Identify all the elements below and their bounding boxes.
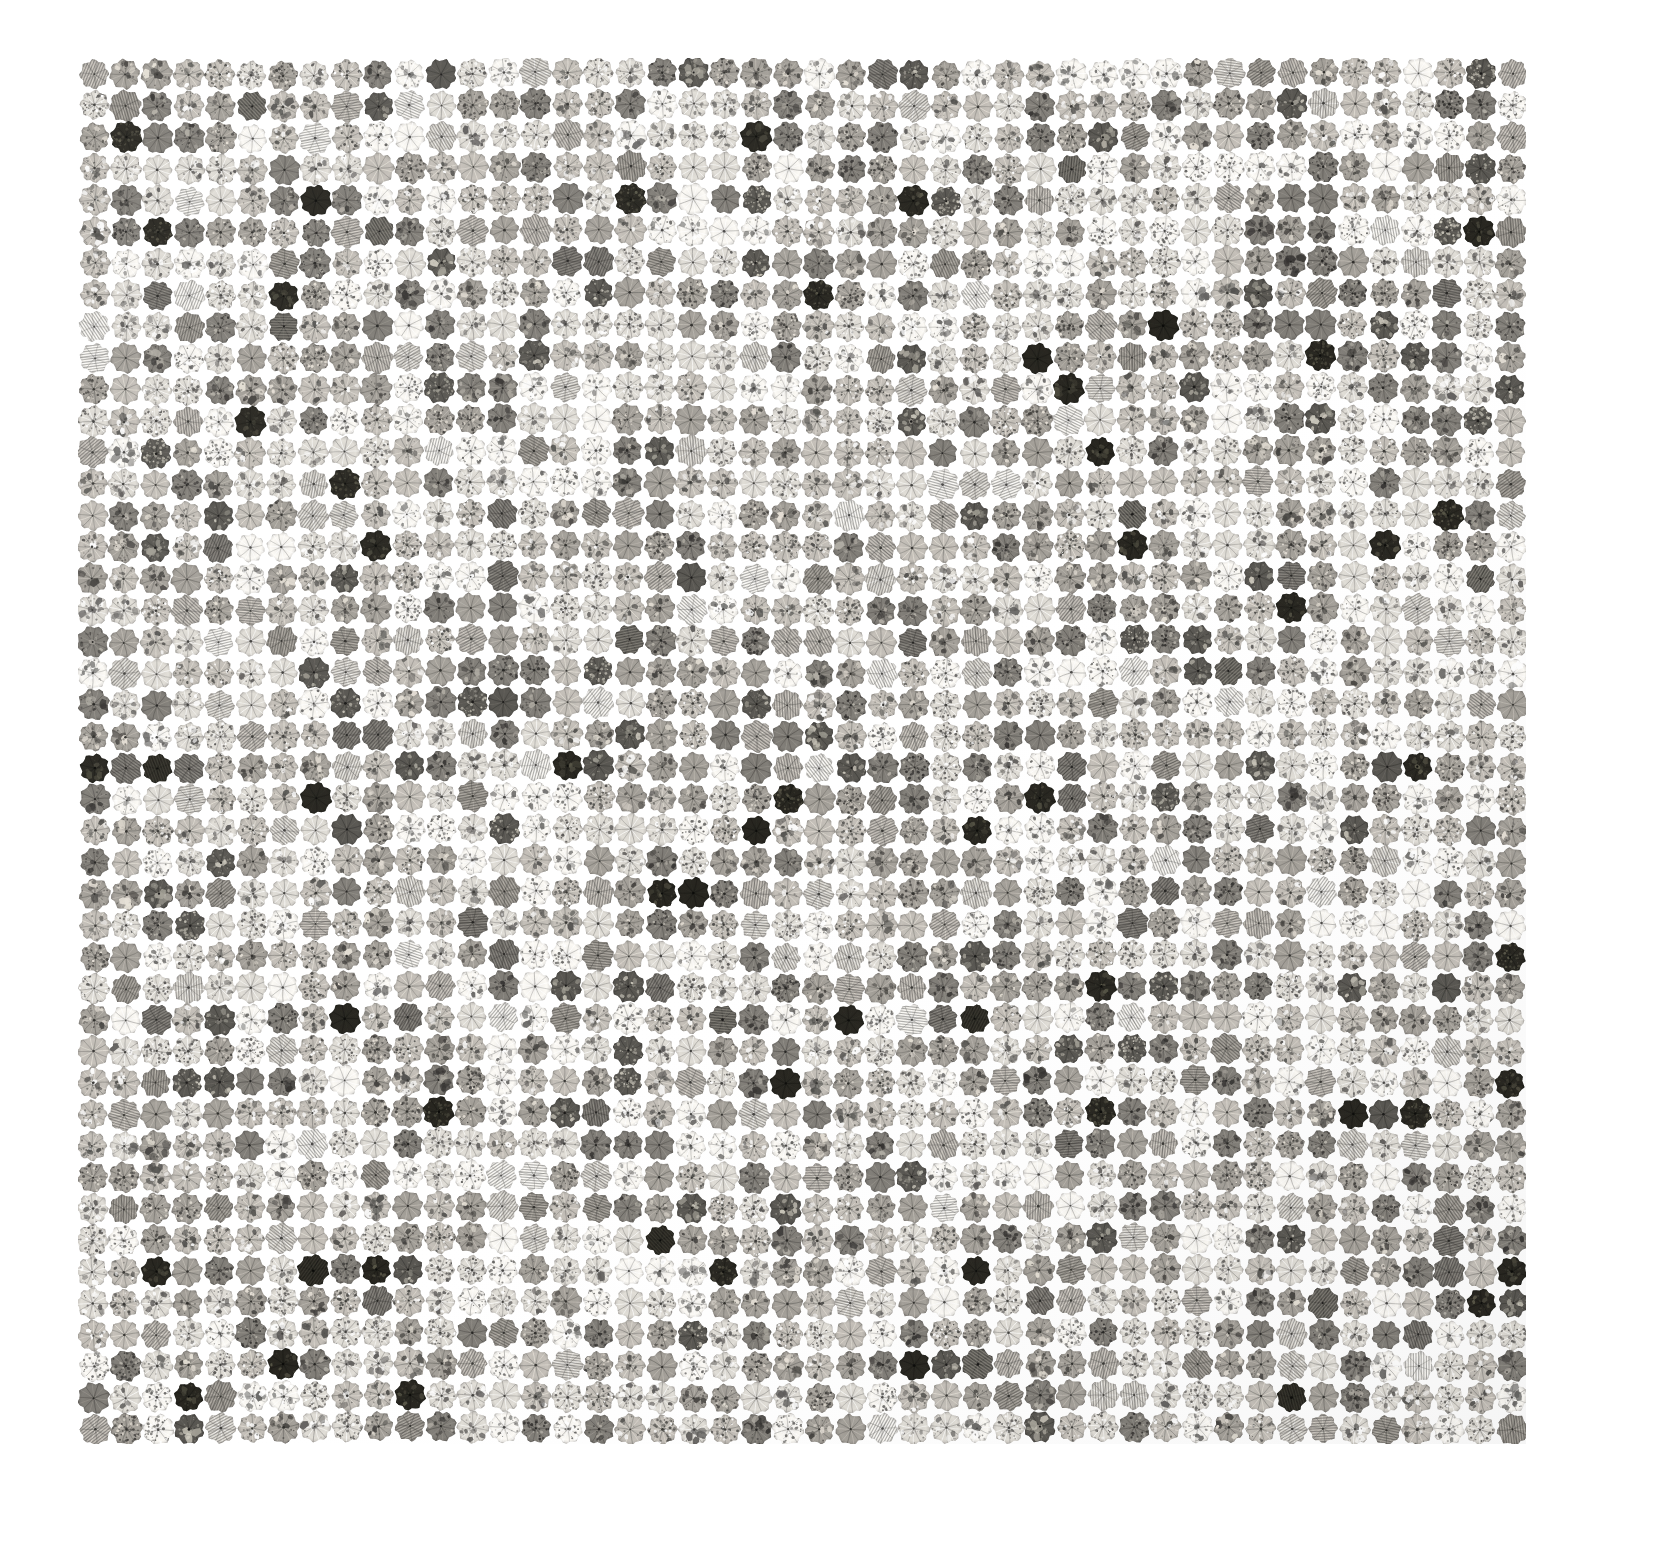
quilt-texture-canvas bbox=[78, 58, 1526, 1444]
yo-yo-quilt-panel bbox=[78, 58, 1526, 1444]
artwork-frame: Yo-Yo Quilt (Suffolk Puff coverlet) Gray… bbox=[0, 0, 1661, 1543]
